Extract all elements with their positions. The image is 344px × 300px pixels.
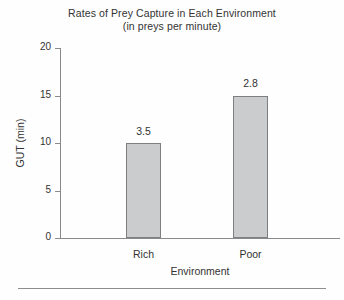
y-tick-1: 5	[55, 191, 60, 192]
chart-title-block: Rates of Prey Capture in Each Environmen…	[0, 7, 344, 33]
y-tick-label-4: 20	[40, 41, 51, 52]
x-category-label-poor: Poor	[220, 248, 281, 260]
plot-area: 0 5 10 15 20 3.5 2.8 Rich Poor	[60, 48, 340, 238]
chart-figure: Rates of Prey Capture in Each Environmen…	[0, 0, 344, 300]
y-tick-0: 0	[55, 238, 60, 239]
y-tick-label-3: 15	[40, 89, 51, 100]
bar-rich	[126, 143, 161, 238]
y-axis-title: GUT (min)	[14, 48, 28, 238]
y-tick-label-1: 5	[45, 184, 51, 195]
x-category-label-rich: Rich	[113, 248, 174, 260]
chart-subtitle: (in preys per minute)	[0, 20, 344, 33]
y-axis-line	[60, 48, 61, 238]
bottom-divider	[18, 288, 326, 289]
x-axis-title: Environment	[60, 265, 340, 277]
bar-poor	[233, 96, 268, 239]
y-tick-label-2: 10	[40, 136, 51, 147]
chart-title: Rates of Prey Capture in Each Environmen…	[0, 7, 344, 20]
x-axis-line	[60, 238, 340, 239]
bar-value-rich: 3.5	[113, 125, 174, 137]
bar-value-poor: 2.8	[220, 77, 281, 89]
y-tick-2: 10	[55, 143, 60, 144]
y-tick-4: 20	[55, 48, 60, 49]
y-tick-3: 15	[55, 96, 60, 97]
y-tick-label-0: 0	[45, 231, 51, 242]
